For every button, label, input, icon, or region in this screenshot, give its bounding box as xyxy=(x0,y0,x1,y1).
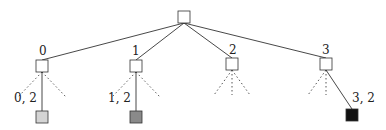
child-node xyxy=(36,60,48,72)
leaf-node xyxy=(130,111,142,123)
leaf-label: 0, 2 xyxy=(14,91,37,105)
child-node xyxy=(320,58,332,70)
root-node xyxy=(178,11,190,23)
leaf-label: 3, 2 xyxy=(352,91,375,105)
dotted-branch xyxy=(308,70,326,95)
child-node xyxy=(130,60,142,72)
child-node xyxy=(226,58,238,70)
tree-edge xyxy=(136,23,184,60)
child-label: 1 xyxy=(132,44,140,58)
dotted-branch xyxy=(42,72,66,97)
tree-diagram: 0, 201, 2123, 23 xyxy=(0,0,386,130)
child-label: 0 xyxy=(39,44,47,58)
tree-edge xyxy=(184,23,326,58)
leaf-node xyxy=(36,111,48,123)
dotted-branch xyxy=(214,70,232,95)
dotted-branch xyxy=(136,72,160,97)
tree-edge xyxy=(184,23,232,58)
dotted-branch xyxy=(232,70,250,95)
leaf-label: 1, 2 xyxy=(108,91,131,105)
child-label: 2 xyxy=(229,43,237,57)
child-label: 3 xyxy=(322,43,330,57)
leaf-edge xyxy=(326,70,352,109)
leaf-node xyxy=(346,109,358,121)
tree-edge xyxy=(42,23,184,60)
